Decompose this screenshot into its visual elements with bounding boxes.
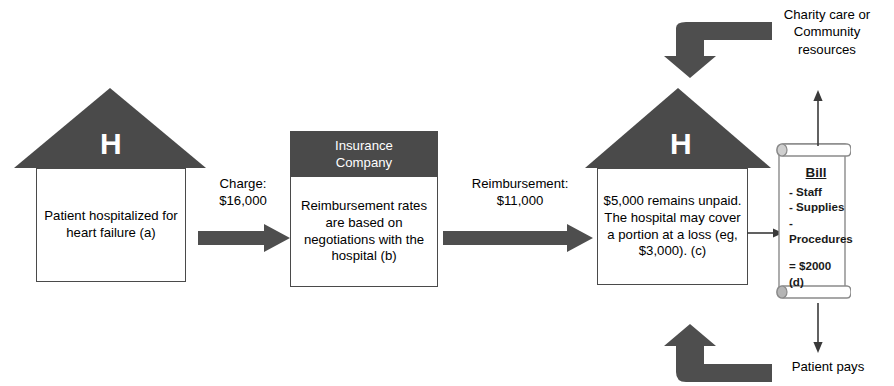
insurance-header-line-1: Insurance xyxy=(335,137,393,154)
charge-label-line-2: $16,000 xyxy=(188,193,298,210)
hospital-1-text: Patient hospitalized for heart failure (… xyxy=(37,208,185,242)
hospital-2-text: $5,000 remains unpaid. The hospital may … xyxy=(598,193,747,261)
charge-arrow-label: Charge: $16,000 xyxy=(188,176,298,210)
insurance-body: Reimbursement rates are based on negotia… xyxy=(290,177,438,287)
insurance-header-line-2: Company xyxy=(335,154,393,171)
bill-to-charity-arrow-icon xyxy=(811,90,825,146)
charity-care-caption: Charity care or Community resources xyxy=(760,6,894,58)
bill-item: - Procedures xyxy=(783,215,849,246)
charity-line-3: resources xyxy=(760,41,894,58)
bill-item: - Supplies xyxy=(783,199,849,215)
hospital-1: H Patient hospitalized for heart failure… xyxy=(0,86,220,286)
patient-pays-label: Patient pays xyxy=(762,358,894,375)
bill-scroll: Bill - Staff - Supplies - Procedures = $… xyxy=(773,138,851,304)
hospital-2: H $5,000 remains unpaid. The hospital ma… xyxy=(575,86,775,286)
hospital-2-box: $5,000 remains unpaid. The hospital may … xyxy=(597,168,748,285)
charge-arrow-icon xyxy=(198,224,290,252)
insurance-company: Insurance Company Reimbursement rates ar… xyxy=(290,131,438,288)
charity-line-1: Charity care or xyxy=(760,6,894,23)
patient-pays-caption: Patient pays xyxy=(762,358,894,375)
hospital-1-roof-letter: H xyxy=(100,129,122,159)
insurance-body-text: Reimbursement rates are based on negotia… xyxy=(291,198,437,266)
patient-to-hospital-elbow-arrow-icon xyxy=(660,322,772,384)
charity-to-hospital-elbow-arrow-icon xyxy=(660,8,772,80)
bill-content: Bill - Staff - Supplies - Procedures = $… xyxy=(783,164,849,289)
bill-item: - Staff xyxy=(783,184,849,200)
charity-line-2: Community xyxy=(760,23,894,40)
charge-label-line-1: Charge: xyxy=(188,176,298,193)
hospital-1-box: Patient hospitalized for heart failure (… xyxy=(36,168,186,282)
bill-to-patient-arrow-icon xyxy=(811,303,825,353)
bill-title: Bill xyxy=(783,164,849,182)
insurance-header: Insurance Company xyxy=(290,131,438,177)
bill-total: = $2000 (d) xyxy=(783,258,849,289)
hospital-2-roof-letter: H xyxy=(670,129,692,159)
diagram-canvas: H Patient hospitalized for heart failure… xyxy=(0,0,894,386)
reimbursement-arrow-icon xyxy=(443,224,593,252)
